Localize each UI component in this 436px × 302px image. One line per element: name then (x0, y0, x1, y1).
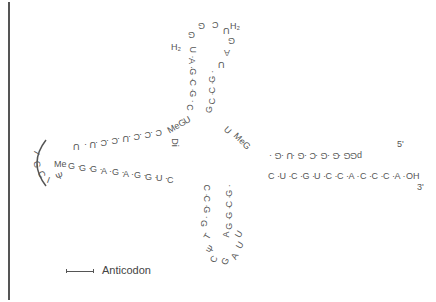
left-border-line (8, 2, 10, 300)
acceptor-bottom-nt: C · (372, 172, 384, 181)
d-loop-nt: G (228, 36, 235, 45)
me-label: Me (54, 160, 67, 169)
anticodon-top-nt: C · (106, 136, 118, 145)
acceptor-bottom-nt: C · (337, 172, 349, 181)
anticodon-bracket (26, 138, 50, 188)
acceptor-top-nt: G · (338, 151, 351, 160)
d-loop-nt: U (223, 26, 230, 35)
d-stem-right-nt: G (205, 106, 214, 113)
anticodon-bottom-nt: C (167, 176, 174, 185)
d-loop-nt: G (198, 21, 205, 30)
d-loop-nt: A (224, 48, 230, 57)
t-stem-left-nt: G (199, 220, 208, 227)
acceptor-bottom-nt: U · (314, 172, 326, 181)
anticodon-top-nt: C · (150, 128, 162, 137)
t-loop-nt: T (202, 232, 213, 241)
connector-di: Di (170, 138, 179, 147)
d-stem-left-nt: C (185, 104, 194, 111)
d-stem-right-nt: C · (208, 93, 217, 105)
acceptor-top-nt: U · (281, 151, 293, 160)
acceptor-top-nt: G · (269, 151, 282, 160)
five-prime-label: 5' (397, 140, 404, 149)
d-stem-left-nt: U · (188, 47, 197, 59)
connector-u: U (222, 125, 233, 136)
d-loop-nt: C (212, 20, 219, 29)
t-loop-nt: C (209, 254, 220, 264)
anticodon-top-nt: C · (128, 132, 140, 141)
acceptor-bottom-nt: C · (360, 172, 372, 181)
t-stem-right-nt: G · (225, 217, 234, 230)
anticodon-bottom-nt: A · (123, 170, 134, 179)
acceptor-bottom-nt: A · (349, 172, 360, 181)
t-loop-nt: G (220, 256, 231, 267)
acceptor-top-nt: C · (304, 151, 316, 160)
t-stem-left-nt: G · (202, 206, 211, 219)
acceptor-bottom-nt: C · (383, 172, 395, 181)
d-stem-left-nt: G · (188, 90, 197, 103)
connector-meg: MeG (232, 131, 252, 151)
acceptor-bottom-nt: C · (326, 172, 338, 181)
anticodon-top-nt: U (73, 142, 80, 151)
anticodon-top-nt: U · (117, 134, 129, 143)
anticodon-bottom-nt: A · (101, 167, 112, 176)
acceptor-top-nt: G · (292, 151, 305, 160)
anticodon-legend-line (66, 271, 94, 272)
acceptor-bottom-nt: A · (395, 172, 406, 181)
d-loop-nt: G (188, 30, 195, 39)
acceptor-bottom-nt: C · (291, 172, 303, 181)
acceptor-bottom-nt: C · (268, 172, 280, 181)
acceptor-top-nt: G · (315, 151, 328, 160)
three-prime-label: 3' (417, 183, 424, 192)
anticodon-loop-nt: Ψ (55, 171, 65, 182)
t-loop-nt: U (234, 229, 245, 239)
acceptor-bottom-nt: OH (406, 172, 420, 181)
acceptor-bottom-nt: U · (280, 172, 292, 181)
d-loop-nt: U (218, 60, 225, 69)
anticodon-legend-label: Anticodon (102, 264, 151, 276)
t-loop-nt: U (235, 240, 246, 250)
anticodon-top-nt: U · (84, 140, 96, 149)
modified-h2-left: H₂ (171, 43, 181, 52)
anticodon-top-nt: C · (139, 130, 151, 139)
modified-h2-right: H₂ (230, 22, 240, 31)
t-stem-right-nt: A (222, 231, 231, 237)
anticodon-top-nt: C · (95, 138, 107, 147)
acceptor-top-nt: pG (350, 151, 362, 160)
